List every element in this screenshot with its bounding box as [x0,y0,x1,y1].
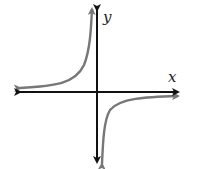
hyperbola-graph: y x [0,0,197,169]
curve-branch-quadrant-iv [102,96,178,164]
curve-branch-quadrant-ii [20,9,92,88]
curve [20,9,178,164]
y-axis-label: y [102,8,112,26]
x-axis-label: x [168,68,177,86]
